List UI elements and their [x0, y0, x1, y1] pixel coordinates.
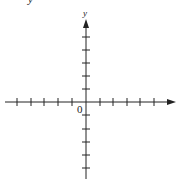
y-axis-arrow-icon: [83, 19, 89, 28]
x-axis: [5, 98, 176, 106]
coordinate-plane: y: [0, 0, 178, 179]
top-cut-label: y: [27, 0, 33, 5]
y-axis: [82, 19, 90, 179]
x-axis-arrow-icon: [167, 99, 176, 105]
origin-label: 0: [77, 103, 83, 115]
y-axis-label: y: [82, 8, 87, 18]
